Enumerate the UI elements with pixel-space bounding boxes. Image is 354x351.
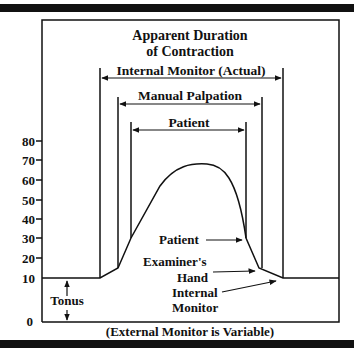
diagram-title-line1: Apparent Duration xyxy=(132,28,247,43)
tonus-label: Tonus xyxy=(50,293,84,308)
footer-note: (External Monitor is Variable) xyxy=(106,324,274,339)
y-axis-ticks xyxy=(36,141,42,258)
y-tick-20: 20 xyxy=(22,251,35,266)
y-tick-10: 10 xyxy=(22,271,35,286)
contraction-diagram: 80 70 60 50 40 30 20 10 0 Apparent Durat… xyxy=(0,0,354,351)
y-axis-labels: 80 70 60 50 40 30 20 10 0 xyxy=(22,134,35,329)
manual-palpation-span-label: Manual Palpation xyxy=(138,88,242,103)
internal-monitor-span-label: Internal Monitor (Actual) xyxy=(117,63,266,78)
y-tick-50: 50 xyxy=(22,193,35,208)
internal-annotation-line1: Internal xyxy=(172,285,218,300)
internal-annotation-line2: Monitor xyxy=(172,300,218,315)
y-tick-40: 40 xyxy=(22,212,35,227)
diagram-title-line2: of Contraction xyxy=(146,44,234,59)
y-tick-0: 0 xyxy=(27,314,34,329)
patient-annotation: Patient xyxy=(159,232,199,247)
y-tick-70: 70 xyxy=(22,153,35,168)
y-tick-60: 60 xyxy=(22,173,35,188)
y-tick-80: 80 xyxy=(22,134,35,149)
examiner-annotation-line2: Hand xyxy=(177,270,209,285)
y-tick-30: 30 xyxy=(22,231,35,246)
examiner-annotation-line1: Examiner's xyxy=(143,254,207,269)
patient-span-label: Patient xyxy=(168,115,210,130)
